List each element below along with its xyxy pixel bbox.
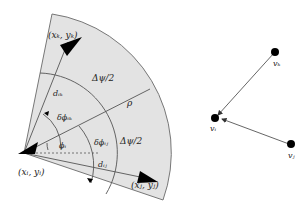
label-delta-phi-ik: δϕᵢₖ [57,113,72,122]
label-phi-i: ϕᵢ [59,141,66,150]
edge-vk-vi [218,53,274,115]
label-xj-yj: (xⱼ, yⱼ) [131,180,159,190]
label-delta-psi-half-top: Δψ/2 [91,73,115,83]
label-delta-phi-ij: δϕᵢⱼ [94,138,109,147]
node-v-i [211,114,219,122]
label-d-ij: dᵢⱼ [98,160,108,169]
label-xi-yi: (xᵢ, yᵢ) [18,167,45,177]
figure: (xₖ, yₖ) Δψ/2 dᵢₖ ρ δϕᵢₖ ϕᵢ δϕᵢⱼ Δψ/2 dᵢ… [0,0,308,213]
node-v-k [271,48,279,56]
label-v-i: vᵢ [210,124,217,133]
label-v-j: vⱼ [288,151,296,160]
label-v-k: vₖ [273,59,281,68]
label-rho: ρ [126,98,133,108]
sensing-sector [24,14,171,200]
graph-panel: vₖ vᵢ vⱼ [210,48,296,160]
label-d-ik: dᵢₖ [53,89,63,98]
label-delta-psi-half-bottom: Δψ/2 [119,136,143,146]
node-v-j [287,140,295,148]
label-xk-yk: (xₖ, yₖ) [48,30,78,40]
edge-vj-vi [222,119,289,144]
